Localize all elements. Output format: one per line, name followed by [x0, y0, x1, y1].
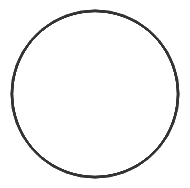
curved-square [12, 11, 177, 176]
curved-square [12, 11, 177, 176]
curved-square [12, 11, 177, 176]
curved-square [12, 11, 177, 176]
curved-square [13, 12, 178, 177]
rotated-squares-group [11, 10, 179, 178]
curved-square [13, 12, 178, 177]
curved-square [13, 12, 178, 177]
curved-square [13, 12, 178, 177]
rosette-pattern [0, 0, 190, 188]
